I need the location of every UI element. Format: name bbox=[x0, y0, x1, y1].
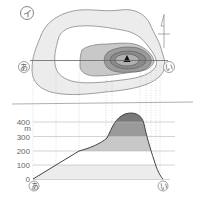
topographic-figure: イ あ い bbox=[0, 0, 201, 206]
section-separator bbox=[12, 102, 193, 104]
label-i2-map-text: い bbox=[165, 63, 173, 72]
label-a-profile: あ bbox=[29, 181, 39, 191]
band-300-400 bbox=[30, 122, 170, 136]
band-0-100 bbox=[30, 165, 170, 180]
label-a-map: あ bbox=[19, 62, 30, 73]
label-i2-map: い bbox=[164, 62, 175, 73]
y-tick-200: 200 bbox=[17, 147, 31, 156]
label-a-map-text: あ bbox=[20, 63, 28, 72]
contour-map: イ あ い bbox=[19, 7, 175, 95]
band-100-200 bbox=[30, 151, 170, 165]
label-i-text: イ bbox=[23, 9, 32, 19]
label-i-profile-text: い bbox=[160, 182, 167, 191]
label-i-profile: い bbox=[158, 181, 168, 191]
label-i-marker: イ bbox=[21, 7, 34, 20]
north-arrow-icon bbox=[158, 14, 170, 48]
label-a-profile-text: あ bbox=[31, 182, 38, 191]
y-tick-100: 100 bbox=[17, 161, 31, 170]
y-tick-300: 300 bbox=[17, 133, 31, 142]
